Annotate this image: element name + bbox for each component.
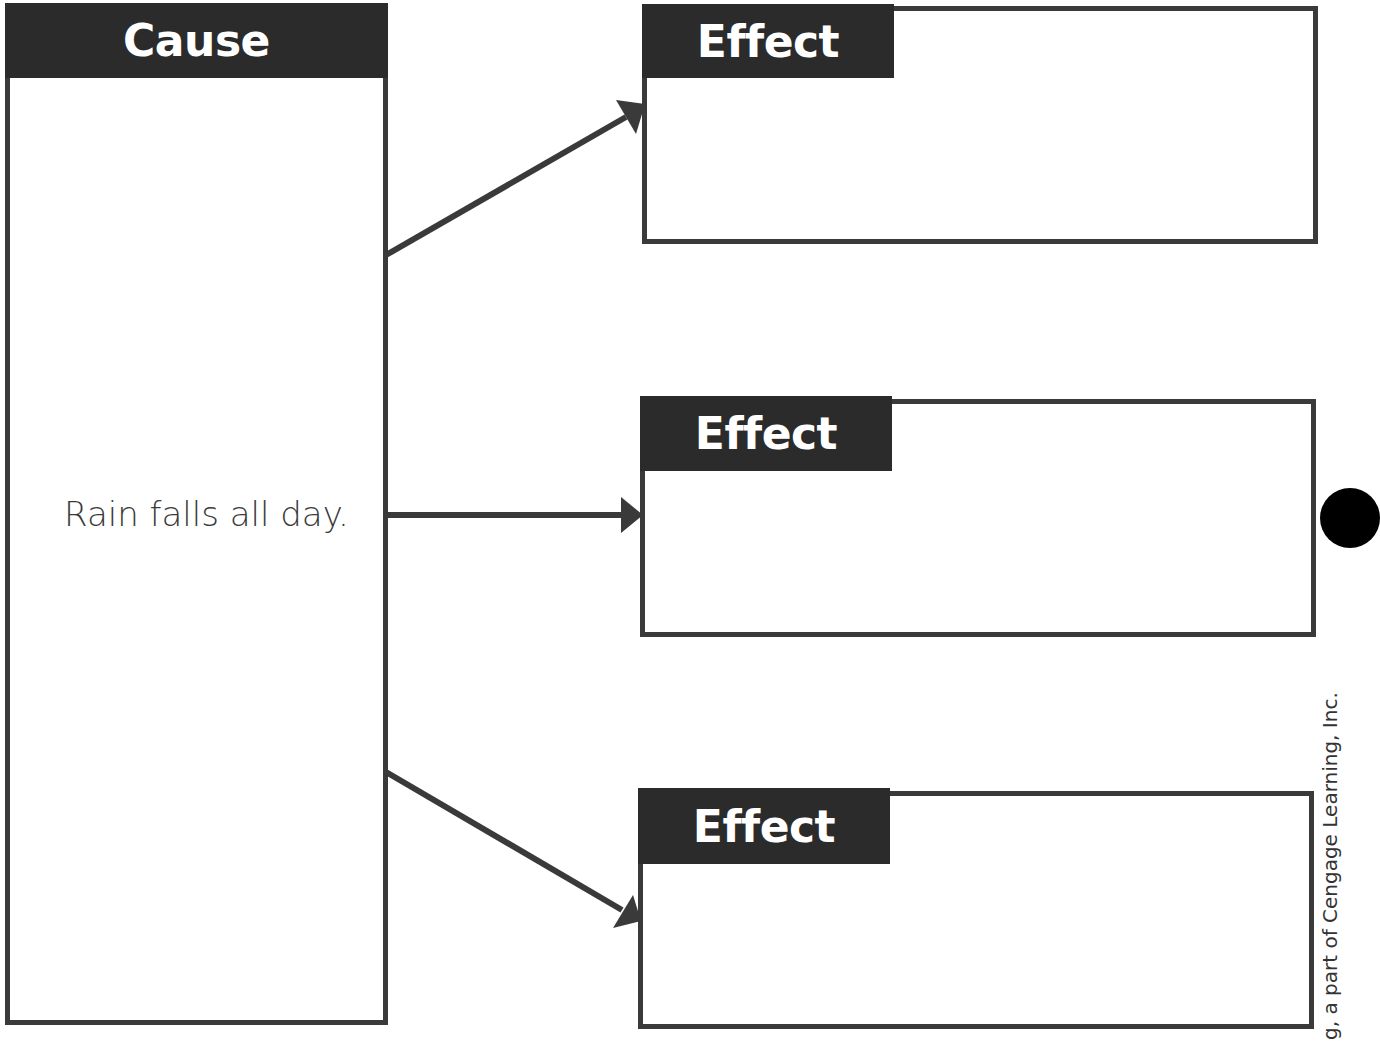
arrow-to-effect-2 xyxy=(386,497,643,533)
page-tab-marker xyxy=(1320,488,1380,548)
arrow-to-effect-3 xyxy=(386,772,641,928)
arrow-to-effect-1 xyxy=(386,100,645,255)
copyright-text: g, a part of Cengage Learning, Inc. xyxy=(1318,692,1342,1040)
